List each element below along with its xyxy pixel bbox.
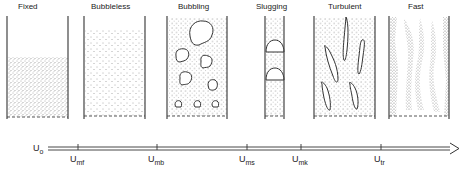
tick-label-ums: Ums [239,154,255,166]
column-slugging [265,16,284,119]
fluidization-regimes-diagram [0,0,461,174]
velocity-axis [48,143,459,154]
column-bubbling [167,16,227,119]
tick-label-umb: Umb [148,154,164,166]
tick-label-umk: Umk [292,154,308,166]
axis-variable-label: Uo [33,143,43,155]
column-bubbleless [84,16,145,119]
column-fixed [7,16,68,119]
tick-label-umf: Umf [70,154,84,166]
column-fast [389,16,449,119]
column-turbulent [314,16,375,119]
tick-label-utr: Utr [374,154,385,166]
